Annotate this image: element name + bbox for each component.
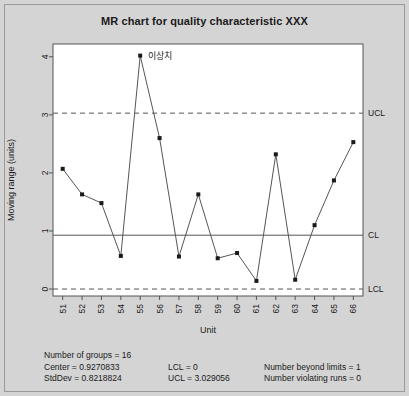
stats-column-violations: Number beyond limits = 1 Number violatin… [264,362,361,385]
data-point-marker[interactable] [138,54,142,58]
data-point-marker[interactable] [293,278,297,282]
stat-ucl: UCL = 3.029056 [168,373,230,385]
x-tick-label: 61 [251,304,261,314]
x-tick-label: 62 [271,304,281,314]
y-tick-label: 2 [40,170,50,175]
data-point-marker[interactable] [216,256,220,260]
ucl-label: UCL [368,108,385,118]
x-tick-label: 59 [213,304,223,314]
x-tick-label: 66 [348,304,358,314]
data-point-marker[interactable] [235,251,239,255]
data-point-marker[interactable] [254,279,258,283]
stat-lcl: LCL = 0 [168,362,230,374]
data-point-marker[interactable] [313,223,317,227]
x-tick-label: 55 [135,304,145,314]
x-tick-label: 53 [96,304,106,314]
x-tick-label: 65 [329,304,339,314]
mr-chart-figure: MR chart for quality characteristic XXX … [0,0,409,396]
x-tick-label: 57 [174,304,184,314]
stat-center: Center = 0.9270833 [44,362,131,374]
x-tick-label: 63 [290,304,300,314]
x-tick-label: 52 [77,304,87,314]
x-tick-label: 60 [232,304,242,314]
data-point-marker[interactable] [80,192,84,196]
data-point-marker[interactable] [274,152,278,156]
cl-label: CL [368,230,379,240]
x-tick-label: 64 [310,304,320,314]
stat-violating-runs: Number violating runs = 0 [264,373,361,385]
x-tick-label: 58 [193,304,203,314]
outlier-annotation: 이상치 [148,50,172,61]
data-point-marker[interactable] [332,178,336,182]
y-tick-label: 4 [40,54,50,59]
data-point-marker[interactable] [99,201,103,205]
stats-column-groups: Number of groups = 16 Center = 0.9270833… [44,350,131,385]
mr-chart-plot: LCLUCLCL이상치01234515253545556575859606162… [0,0,409,396]
x-axis-title: Unit [53,325,363,335]
x-tick-label: 54 [116,304,126,314]
stat-stddev: StdDev = 0.8218824 [44,373,131,385]
data-point-marker[interactable] [119,254,123,258]
stat-number-of-groups: Number of groups = 16 [44,350,131,362]
lcl-label: LCL [368,284,384,294]
y-axis-title: Moving range (units) [6,120,16,240]
y-tick-label: 3 [40,112,50,117]
x-tick-label: 56 [155,304,165,314]
stats-column-limits: LCL = 0 UCL = 3.029056 [168,362,230,385]
y-tick-label: 1 [40,228,50,233]
stat-beyond-limits: Number beyond limits = 1 [264,362,361,374]
data-point-marker[interactable] [351,140,355,144]
data-point-marker[interactable] [158,136,162,140]
data-point-marker[interactable] [196,192,200,196]
x-tick-label: 51 [58,304,68,314]
data-point-marker[interactable] [177,255,181,259]
data-point-marker[interactable] [61,167,65,171]
y-tick-label: 0 [40,286,50,291]
